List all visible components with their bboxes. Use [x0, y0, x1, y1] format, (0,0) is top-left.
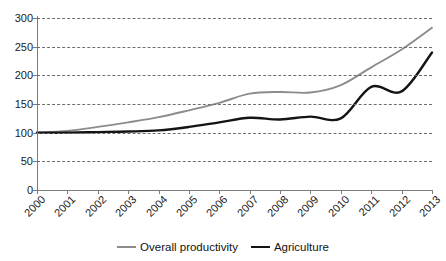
y-tick-mark — [33, 47, 37, 48]
y-gridline — [37, 18, 432, 19]
x-axis-tick-label: 2009 — [291, 193, 321, 223]
y-gridline — [37, 133, 432, 134]
x-axis-tick-label: 2011 — [352, 193, 382, 223]
x-axis-tick-label: 2006 — [200, 193, 230, 223]
line-chart: 050100150200250300 200020012002200320042… — [0, 0, 446, 261]
legend-label: Agriculture — [274, 241, 329, 253]
series-layer — [0, 0, 446, 200]
legend-item-overall-productivity: Overall productivity — [117, 241, 238, 253]
x-axis-tick-label: 2003 — [109, 193, 139, 223]
x-axis-tick-label: 2002 — [79, 193, 109, 223]
series-line-overall-productivity — [37, 28, 432, 133]
x-axis-tick-label: 2012 — [382, 193, 412, 223]
legend-swatch-line-icon — [251, 246, 270, 248]
x-axis-tick-label: 2010 — [322, 193, 352, 223]
y-gridline — [37, 104, 432, 105]
chart-legend: Overall productivity Agriculture — [0, 236, 446, 258]
x-axis-tick-label: 2008 — [261, 193, 291, 223]
x-axis-tick-label: 2004 — [139, 193, 169, 223]
x-axis-tick-label: 2013 — [413, 193, 443, 223]
y-tick-mark — [33, 104, 37, 105]
legend-label: Overall productivity — [140, 241, 238, 253]
legend-item-agriculture: Agriculture — [251, 241, 329, 253]
legend-swatch-line-icon — [117, 246, 136, 248]
series-line-agriculture — [37, 52, 432, 132]
y-gridline — [37, 161, 432, 162]
y-gridline — [37, 47, 432, 48]
y-tick-mark — [33, 133, 37, 134]
x-axis-tick-label: 2000 — [18, 193, 48, 223]
x-axis-tick-label: 2001 — [48, 193, 78, 223]
y-tick-mark — [33, 18, 37, 19]
y-gridline — [37, 75, 432, 76]
x-axis-labels: 2000200120022003200420052006200720082009… — [0, 190, 446, 235]
plot-area: 050100150200250300 — [0, 0, 446, 200]
y-tick-mark — [33, 161, 37, 162]
x-axis-tick-label: 2007 — [230, 193, 260, 223]
y-tick-mark — [33, 75, 37, 76]
x-axis-tick-label: 2005 — [170, 193, 200, 223]
